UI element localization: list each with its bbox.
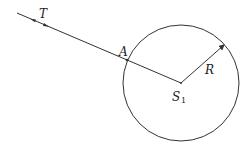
diagram-canvas: T A R S 1 bbox=[0, 0, 251, 148]
radius-arrow bbox=[181, 45, 224, 83]
label-s-subscript: 1 bbox=[181, 96, 186, 105]
point-a-dot bbox=[126, 59, 129, 62]
label-s: S bbox=[172, 90, 180, 104]
label-t: T bbox=[39, 7, 48, 21]
label-a: A bbox=[118, 45, 128, 59]
trajectory-line bbox=[17, 13, 181, 83]
arrow-back-icon bbox=[30, 19, 36, 23]
label-r: R bbox=[204, 63, 214, 77]
arrow-forward-icon bbox=[43, 23, 49, 27]
